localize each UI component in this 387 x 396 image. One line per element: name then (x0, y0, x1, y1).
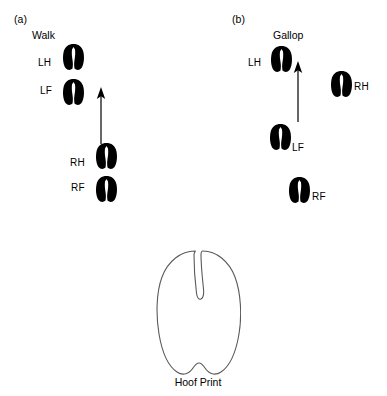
track-label-gallop-rf: RF (312, 192, 326, 202)
track-label-walk-lh: LH (38, 58, 51, 68)
track-label-walk-rh: RH (70, 158, 85, 168)
hoof-glyph-gallop-rh (330, 70, 353, 98)
direction-arrow-gallop (291, 60, 305, 122)
gait-title-gallop: Gallop (273, 30, 303, 41)
track-label-walk-rf: RF (71, 183, 85, 193)
track-label-gallop-rh: RH (354, 82, 369, 92)
panel-letter-a: (a) (14, 14, 27, 25)
hoof-print-caption: Hoof Print (148, 377, 248, 388)
gait-title-walk: Walk (32, 30, 55, 41)
hoof-glyph-walk-lh (62, 43, 85, 71)
hoof-glyph-gallop-rf (288, 176, 311, 204)
hoof-glyph-walk-lf (62, 78, 85, 106)
hoof-glyph-gallop-lh (270, 45, 293, 73)
hoof-track-diagram: (a) Walk LH LF RH RF (0, 0, 387, 396)
track-label-gallop-lf: LF (292, 143, 304, 153)
track-label-gallop-lh: LH (248, 58, 261, 68)
track-label-walk-lf: LF (40, 86, 52, 96)
hoof-glyph-gallop-lf (269, 123, 292, 151)
hoof-glyph-walk-rf (95, 175, 118, 203)
direction-arrow-walk (94, 86, 108, 144)
hoof-print-outline (155, 246, 241, 378)
hoof-glyph-walk-rh (95, 142, 118, 170)
panel-letter-b: (b) (232, 14, 245, 25)
